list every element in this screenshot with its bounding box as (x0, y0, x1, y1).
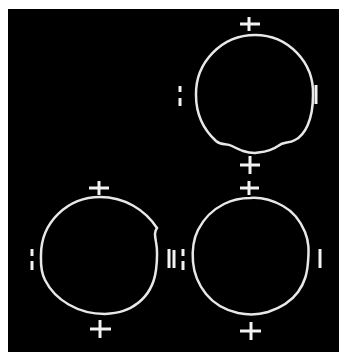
ring-bottom-right (193, 198, 309, 315)
caption (10, 352, 340, 358)
ring-bottom-left (41, 197, 157, 314)
rings-figure (0, 0, 348, 359)
top-right-marks (180, 17, 316, 174)
ring-top-right (196, 35, 313, 153)
bottom-right-marks (174, 181, 320, 340)
